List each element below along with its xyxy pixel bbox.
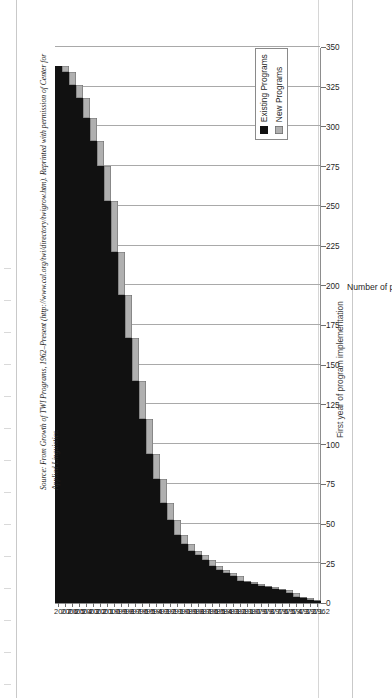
bar-1973 (293, 593, 299, 603)
value-label-350: 350 (326, 43, 340, 52)
bar-segment-new-1977 (265, 586, 271, 588)
value-label-50: 50 (326, 520, 335, 529)
bar-1976 (272, 587, 278, 603)
page-edge-mark (4, 268, 11, 269)
page-edge-mark (4, 364, 11, 365)
bar-segment-new-1988 (188, 544, 194, 550)
bar-segment-new-2001 (97, 141, 103, 166)
bar-segment-existing-1980 (244, 582, 250, 603)
value-label-100: 100 (326, 441, 340, 450)
bar-segment-new-1962 (314, 600, 320, 602)
bar-segment-existing-2006 (62, 72, 68, 603)
value-label-275: 275 (326, 163, 340, 172)
bar-segment-new-1972 (300, 597, 306, 599)
bar-segment-existing-1976 (272, 589, 278, 603)
value-label-225: 225 (326, 242, 340, 251)
bar-1981 (237, 576, 243, 603)
page-edge-mark (4, 300, 11, 301)
bar-segment-new-1998 (118, 252, 124, 295)
bar-segment-existing-1977 (265, 587, 271, 603)
bar-1978 (258, 584, 264, 603)
gray-square-icon (275, 126, 283, 134)
bar-segment-new-1994 (146, 419, 152, 454)
bar-segment-existing-1985 (209, 566, 215, 603)
value-tick-150 (321, 365, 326, 366)
bar-1980 (244, 581, 250, 603)
bar-segment-new-2004 (76, 85, 82, 98)
page-edge-mark (4, 524, 11, 525)
page-rule-right (352, 0, 353, 698)
source-note: Source: From Growth of TWI Programs, 196… (38, 190, 62, 490)
page-edge-mark (4, 332, 11, 333)
bar-1995 (139, 381, 145, 603)
value-tick-125 (321, 404, 326, 405)
bar-2005 (69, 72, 75, 603)
page-edge-mark (4, 684, 11, 685)
bar-segment-new-1976 (272, 587, 278, 589)
bar-segment-new-1991 (167, 503, 173, 520)
bar-2002 (90, 119, 96, 604)
value-tick-75 (321, 484, 326, 485)
bar-segment-new-1984 (216, 566, 222, 569)
bar-segment-new-1973 (293, 593, 299, 596)
bar-segment-existing-1997 (125, 338, 131, 603)
bar-1997 (125, 295, 131, 603)
bar-1991 (167, 503, 173, 603)
bar-segment-existing-1993 (153, 479, 159, 603)
bar-1985 (209, 560, 215, 603)
bar-segment-existing-1979 (251, 584, 257, 603)
value-label-325: 325 (326, 83, 340, 92)
value-label-250: 250 (326, 202, 340, 211)
page-edge-mark (4, 620, 11, 621)
bar-segment-new-1996 (132, 338, 138, 381)
bar-segment-existing-1991 (167, 520, 173, 603)
bar-segment-new-2000 (104, 166, 110, 201)
source-note-line-1: Source: From Growth of TWI Programs, 196… (38, 190, 50, 490)
bar-segment-new-2006 (62, 66, 68, 72)
axis-title-number-of-programs: Number of programs (347, 282, 392, 292)
bar-segment-new-1989 (181, 535, 187, 545)
bar-segment-existing-2005 (69, 85, 75, 603)
bar-segment-new-1990 (174, 520, 180, 534)
page-edge-mark (4, 652, 11, 653)
bar-segment-existing-1986 (202, 560, 208, 603)
bar-1994 (146, 419, 152, 603)
value-label-200: 200 (326, 282, 340, 291)
value-tick-350 (321, 47, 326, 48)
page-edge-mark (4, 556, 11, 557)
chart-legend: Existing Programs New Programs (255, 48, 288, 140)
bar-segment-existing-1998 (118, 295, 124, 603)
bar-1993 (153, 454, 159, 603)
bar-segment-existing-2004 (76, 98, 82, 603)
bar-segment-existing-1982 (230, 576, 236, 603)
bar-segment-new-1999 (111, 201, 117, 252)
bar-1979 (251, 582, 257, 603)
bar-segment-existing-2003 (83, 119, 89, 604)
bar-segment-new-1995 (139, 381, 145, 419)
value-tick-100 (321, 444, 326, 445)
value-tick-250 (321, 206, 326, 207)
bar-segment-new-1981 (237, 576, 243, 581)
bar-segment-new-1992 (160, 479, 166, 503)
bar-segment-existing-1994 (146, 454, 152, 603)
bar-segment-existing-1974 (286, 593, 292, 603)
page-rule-left (16, 0, 17, 698)
bar-1974 (286, 590, 292, 603)
bar-segment-new-1997 (125, 295, 131, 338)
black-square-icon (260, 126, 268, 134)
value-tick-300 (321, 126, 326, 127)
value-tick-325 (321, 87, 326, 88)
twi-programs-stacked-bar-chart: 0255075100125150175200225250275300325350… (45, 16, 347, 648)
bar-segment-existing-1978 (258, 586, 264, 603)
bar-segment-existing-1992 (160, 503, 166, 603)
bar-segment-existing-1999 (111, 252, 117, 603)
bar-2004 (76, 85, 82, 603)
bar-1996 (132, 338, 138, 603)
bar-segment-existing-1990 (174, 535, 180, 603)
value-tick-0 (321, 603, 326, 604)
legend-entry-new-programs: New Programs (274, 54, 284, 134)
value-tick-25 (321, 563, 326, 564)
bar-segment-existing-2001 (97, 166, 103, 603)
bar-1975 (279, 589, 285, 603)
source-note-line-2: Applied Linguistics. (50, 190, 62, 490)
